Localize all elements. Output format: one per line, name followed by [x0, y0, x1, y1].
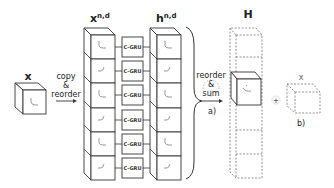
plus-icon: +	[273, 97, 279, 105]
output-stack: H	[230, 8, 262, 178]
svg-text:reorder: reorder	[51, 90, 81, 99]
gru-unit: C-GRU	[115, 134, 154, 154]
diagram-canvas: x copy & reorder xn,d	[0, 0, 334, 188]
copy-reorder-step: copy & reorder	[51, 72, 81, 103]
svg-text:a): a)	[208, 107, 216, 116]
stack-h-label: hn,d	[156, 12, 177, 25]
svg-text:copy: copy	[56, 72, 75, 81]
input-cube: x	[15, 70, 46, 114]
reorder-sum-step: reorder & sum a)	[196, 71, 226, 116]
gru-unit: C-GRU	[115, 61, 154, 81]
stack-x-label: xn,d	[90, 12, 110, 25]
svg-text:b): b)	[297, 119, 305, 128]
gru-unit: C-GRU	[115, 158, 154, 178]
gru-unit: C-GRU	[115, 37, 154, 57]
svg-text:&: &	[208, 80, 214, 89]
input-label: x	[24, 70, 31, 83]
svg-text:C-GRU: C-GRU	[124, 141, 142, 147]
svg-text:reorder: reorder	[196, 71, 226, 80]
svg-text:C-GRU: C-GRU	[124, 44, 142, 50]
gru-unit: C-GRU	[115, 110, 154, 130]
output-label: H	[243, 8, 252, 21]
svg-text:C-GRU: C-GRU	[124, 117, 142, 123]
gru-column: C-GRU C-GRU C-GRU C-GRU	[115, 37, 154, 178]
residual-add: + x b)	[272, 73, 320, 128]
svg-text:&: &	[63, 81, 69, 90]
stack-h: hn,d	[150, 12, 181, 180]
residual-label: x	[299, 73, 304, 82]
svg-text:C-GRU: C-GRU	[124, 165, 142, 171]
stack-x: xn,d	[84, 12, 115, 180]
brace-icon	[186, 27, 202, 179]
gru-unit: C-GRU	[115, 85, 154, 105]
svg-text:C-GRU: C-GRU	[124, 68, 142, 74]
residual-cube	[287, 84, 320, 113]
svg-text:C-GRU: C-GRU	[124, 92, 142, 98]
output-cube	[231, 72, 261, 105]
